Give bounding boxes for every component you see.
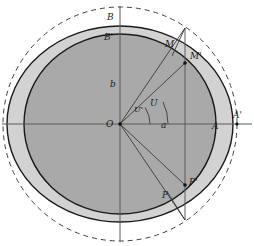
label-angle-u-prime: U' [134,106,143,114]
label-point-m: M [165,40,174,49]
point-marker-p-prime [183,183,187,187]
label-vertex-a: A [212,122,219,131]
geometry-diagram: O a b A A' B B' M M' P P' U U' [0,0,254,246]
label-semi-major-a: a [161,121,166,130]
label-point-p: P [162,191,168,200]
label-origin: O [106,120,113,129]
label-point-p-prime: P' [189,178,198,187]
label-angle-u: U [150,99,158,108]
label-vertex-b: B [107,13,114,22]
label-vertex-b-prime: B' [104,33,113,42]
label-vertex-a-prime: A' [233,111,242,120]
point-marker-m-prime [183,61,187,65]
label-point-m-prime: M' [190,52,202,61]
point-marker-a-prime [235,122,238,125]
point-marker-origin [118,122,122,126]
label-semi-minor-b: b [110,80,116,89]
